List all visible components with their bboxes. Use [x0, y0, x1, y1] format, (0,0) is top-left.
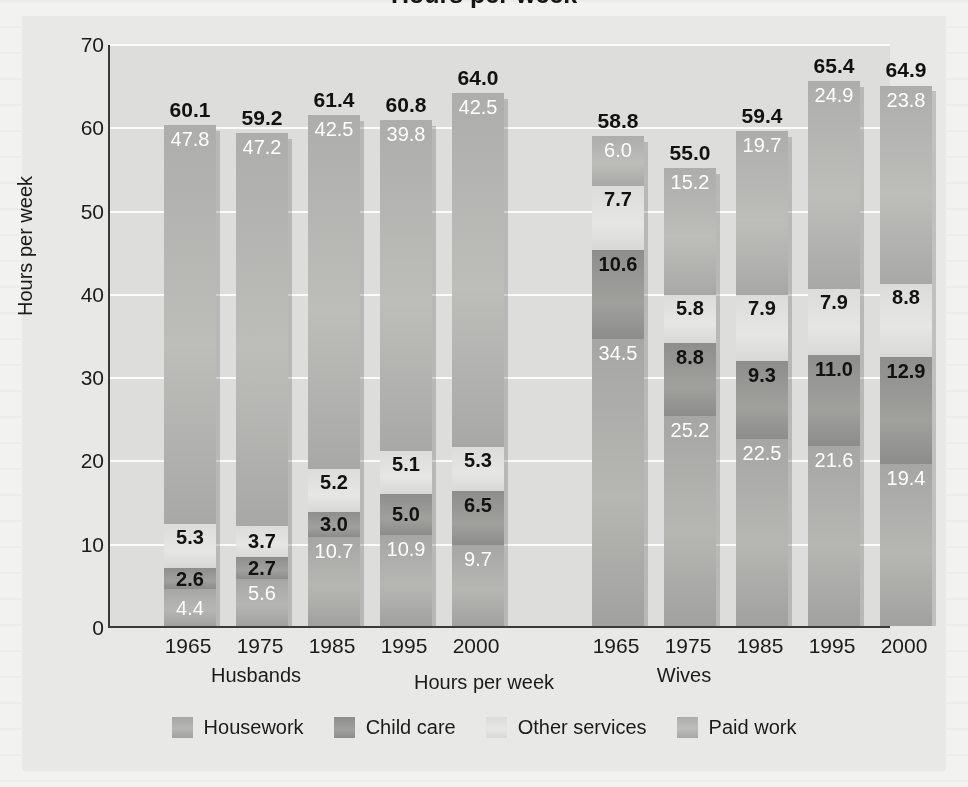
bar-segment-housework[interactable]: 19.4: [880, 464, 932, 626]
segment-value-label: 7.9: [820, 292, 848, 312]
segment-value-label: 7.9: [748, 298, 776, 318]
bar-segment-child-care[interactable]: 5.0: [380, 494, 432, 536]
bar-segment-paid-work[interactable]: 19.7: [736, 131, 788, 295]
bar-wives-2000[interactable]: 64.919.412.98.823.8: [880, 85, 932, 626]
bar-wives-1985[interactable]: 59.422.59.37.919.7: [736, 131, 788, 626]
bar-wives-1975[interactable]: 55.025.28.85.815.2: [664, 168, 716, 626]
bar-total-label: 59.2: [242, 106, 283, 130]
bar-segment-housework[interactable]: 22.5: [736, 439, 788, 626]
chart-figure: Hours per week 010203040506070 60.14.42.…: [22, 16, 946, 771]
segment-value-label: 34.5: [599, 343, 638, 363]
x-axis-ticks: 1965197519851995200019651975198519952000…: [108, 634, 890, 668]
bar-husbands-1985[interactable]: 61.410.73.05.242.5: [308, 115, 360, 626]
bar-segment-paid-work[interactable]: 39.8: [380, 120, 432, 451]
bar-total-label: 55.0: [670, 141, 711, 165]
segment-value-label: 3.7: [248, 531, 276, 551]
segment-value-label: 5.3: [464, 450, 492, 470]
bar-segment-housework[interactable]: 21.6: [808, 446, 860, 626]
bar-husbands-1975[interactable]: 59.25.62.73.747.2: [236, 133, 288, 626]
bar-segment-child-care[interactable]: 3.0: [308, 512, 360, 537]
segment-value-label: 7.7: [604, 189, 632, 209]
chart-legend: HouseworkChild careOther servicesPaid wo…: [22, 716, 946, 739]
bar-total-label: 61.4: [314, 88, 355, 112]
bar-segment-paid-work[interactable]: 47.2: [236, 133, 288, 526]
bar-segment-other-services[interactable]: 7.9: [736, 295, 788, 361]
clipped-figure-title: Hours per week: [0, 0, 968, 14]
legend-item-paid-work[interactable]: Paid work: [677, 716, 797, 739]
bar-segment-child-care[interactable]: 2.6: [164, 568, 216, 590]
bar-husbands-1995[interactable]: 60.810.95.05.139.8: [380, 120, 432, 626]
gridline: [110, 44, 890, 46]
bar-wives-1995[interactable]: 65.421.611.07.924.9: [808, 81, 860, 626]
x-axis-title: Hours per week: [22, 671, 946, 694]
bar-segment-other-services[interactable]: 7.7: [592, 186, 644, 250]
bar-segment-other-services[interactable]: 5.2: [308, 469, 360, 512]
segment-value-label: 8.8: [892, 287, 920, 307]
legend-label: Other services: [518, 716, 647, 739]
legend-swatch-child-care: [334, 717, 355, 738]
bar-total-label: 65.4: [814, 54, 855, 78]
y-axis-tick-label: 60: [60, 116, 104, 140]
segment-value-label: 12.9: [887, 361, 926, 381]
segment-value-label: 5.2: [320, 472, 348, 492]
bar-total-label: 60.8: [386, 93, 427, 117]
segment-value-label: 8.8: [676, 347, 704, 367]
segment-value-label: 23.8: [887, 90, 926, 110]
bar-segment-paid-work[interactable]: 23.8: [880, 86, 932, 284]
segment-value-label: 11.0: [815, 359, 853, 379]
bar-total-label: 59.4: [742, 104, 783, 128]
x-axis-tick-husbands-1975: 1975: [237, 634, 284, 658]
segment-value-label: 47.8: [171, 129, 210, 149]
bar-segment-child-care[interactable]: 11.0: [808, 355, 860, 447]
segment-value-label: 10.7: [315, 541, 354, 561]
bar-segment-housework[interactable]: 5.6: [236, 579, 288, 626]
bar-segment-paid-work[interactable]: 24.9: [808, 81, 860, 288]
segment-value-label: 5.6: [248, 583, 276, 603]
bar-segment-paid-work[interactable]: 42.5: [452, 93, 504, 447]
legend-label: Child care: [366, 716, 456, 739]
bar-segment-other-services[interactable]: 3.7: [236, 526, 288, 557]
bar-segment-paid-work[interactable]: 6.0: [592, 136, 644, 186]
segment-value-label: 4.4: [176, 598, 204, 618]
bar-segment-other-services[interactable]: 8.8: [880, 284, 932, 357]
bar-husbands-2000[interactable]: 64.09.76.55.342.5: [452, 93, 504, 626]
bar-segment-child-care[interactable]: 8.8: [664, 343, 716, 416]
bar-segment-housework[interactable]: 25.2: [664, 416, 716, 626]
bar-segment-other-services[interactable]: 5.3: [164, 524, 216, 568]
bar-segment-paid-work[interactable]: 47.8: [164, 125, 216, 523]
bar-segment-child-care[interactable]: 6.5: [452, 491, 504, 545]
bar-segment-other-services[interactable]: 5.1: [380, 451, 432, 493]
legend-item-housework[interactable]: Housework: [172, 716, 304, 739]
bar-total-label: 64.9: [886, 58, 927, 82]
bar-total-label: 64.0: [458, 66, 499, 90]
segment-value-label: 6.5: [464, 495, 492, 515]
segment-value-label: 22.5: [743, 443, 782, 463]
bar-segment-child-care[interactable]: 9.3: [736, 361, 788, 438]
bar-segment-paid-work[interactable]: 15.2: [664, 168, 716, 295]
bar-segment-other-services[interactable]: 5.3: [452, 447, 504, 491]
bar-segment-other-services[interactable]: 5.8: [664, 295, 716, 343]
bar-total-label: 60.1: [170, 98, 211, 122]
segment-value-label: 10.6: [599, 254, 638, 274]
segment-value-label: 39.8: [387, 124, 426, 144]
bar-segment-child-care[interactable]: 12.9: [880, 357, 932, 464]
bar-segment-housework[interactable]: 9.7: [452, 545, 504, 626]
bar-segment-child-care[interactable]: 2.7: [236, 557, 288, 579]
legend-item-child-care[interactable]: Child care: [334, 716, 456, 739]
bar-husbands-1965[interactable]: 60.14.42.65.347.8: [164, 125, 216, 626]
bar-segment-child-care[interactable]: 10.6: [592, 250, 644, 338]
bar-segment-housework[interactable]: 10.9: [380, 535, 432, 626]
x-axis-tick-wives-2000: 2000: [881, 634, 928, 658]
bar-segment-paid-work[interactable]: 42.5: [308, 115, 360, 469]
legend-item-other-services[interactable]: Other services: [486, 716, 647, 739]
y-axis-tick-label: 70: [60, 33, 104, 57]
bar-wives-1965[interactable]: 58.834.510.67.76.0: [592, 136, 644, 626]
y-axis-tick-label: 0: [60, 616, 104, 640]
segment-value-label: 5.3: [176, 527, 204, 547]
bar-segment-other-services[interactable]: 7.9: [808, 289, 860, 355]
segment-value-label: 2.6: [176, 569, 204, 589]
bar-segment-housework[interactable]: 10.7: [308, 537, 360, 626]
segment-value-label: 5.1: [392, 454, 420, 474]
bar-segment-housework[interactable]: 34.5: [592, 339, 644, 626]
bar-segment-housework[interactable]: 4.4: [164, 589, 216, 626]
